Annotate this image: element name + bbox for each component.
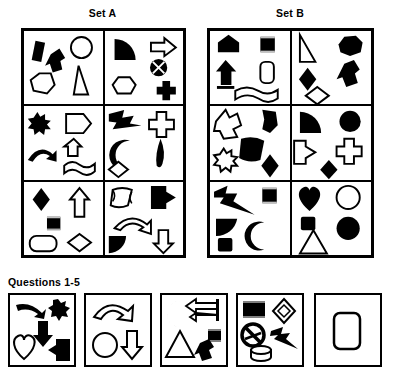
up-arrow-outline [70,188,89,217]
hexagon-blob [338,36,362,56]
circle [71,37,92,58]
cylinder [251,346,271,361]
set-b-cell-4[interactable] [291,105,373,180]
set-a-grid [21,28,186,258]
curved-arrow [114,218,150,233]
curved-arrow [16,304,46,319]
starburst [214,149,237,172]
lightning-feather [108,110,141,129]
crescent [245,221,265,250]
scroll [110,188,131,207]
set-a-cell-4[interactable] [104,105,185,180]
wavy-ribbon [64,162,95,175]
set-a-cell-2[interactable] [104,30,185,105]
quarter-pie [114,39,135,60]
set-a-title: Set A [20,7,185,19]
up-arrow [336,60,359,87]
pentagon-wide [66,114,91,133]
diamond [261,155,278,178]
circle [336,186,359,209]
down-arrow [33,321,53,347]
left-arrow [186,299,219,321]
rounded-rectangle [260,62,274,83]
set-b-cell-3[interactable] [209,105,291,180]
cross [156,81,175,100]
small-square [300,216,314,230]
rounded-rectangle [30,236,57,251]
up-arrow [45,49,65,73]
rounded-rectangle [334,313,360,349]
diamond [298,68,315,91]
set-b-grid [207,28,374,258]
diamond-outline-nested [273,299,295,323]
down-arrow [122,331,142,359]
wavy-ribbon [235,87,277,101]
question-box-1[interactable] [8,293,76,367]
hexagon [112,77,135,93]
rectangle-tilted [32,41,45,62]
small-square [208,329,221,342]
square [243,301,265,318]
diamond [320,160,337,179]
worksheet-page: Set A Set B [0,0,394,378]
small-diamond [108,162,127,177]
small-diamond [305,87,328,104]
flag-arrow-right [150,186,175,209]
curved-arrow [94,305,133,321]
circle [339,111,360,132]
scroll [239,138,264,162]
up-arrow [194,339,214,361]
starburst [28,112,51,135]
small-square [47,216,60,229]
set-b-cell-1[interactable] [209,30,291,105]
triangle [299,230,326,253]
set-b-title: Set B [206,7,374,19]
questions-title: Questions 1-5 [8,276,80,288]
set-a-cell-1[interactable] [23,30,104,105]
small-square [260,37,274,52]
quarter-pie [108,236,125,253]
up-arrow [216,60,236,89]
right-arrow [150,38,175,56]
cross [336,139,361,164]
down-arrow [153,230,172,253]
question-box-3[interactable] [160,293,228,367]
quarter-pie [216,218,237,235]
teardrop [156,139,164,167]
circle-with-x [149,59,166,76]
set-a-cell-5[interactable] [23,181,104,256]
set-a-cell-6[interactable] [104,181,185,256]
set-b-cell-6[interactable] [291,181,373,256]
small-square [262,187,276,202]
arrow-block-up [64,139,81,156]
lightning-feather [214,186,255,215]
set-a-cell-3[interactable] [23,105,104,180]
circle [336,216,359,239]
house-pentagon [218,35,239,52]
small-square [218,238,232,252]
curved-arrow [28,150,57,162]
cross [149,112,174,137]
blob-pentagon [262,110,277,133]
heart [14,335,35,359]
triangle [166,331,194,357]
circle-with-slash [242,324,264,346]
flag-arrow-right [294,141,315,164]
set-b-cell-5[interactable] [209,181,291,256]
right-triangle [74,66,88,95]
diagonal-arrow [214,110,241,139]
question-box-5[interactable] [314,293,382,367]
flag-arrow-left [48,339,70,361]
diamond [33,188,50,211]
pentagon [31,73,55,93]
starburst [48,299,70,321]
lightning-feather [270,327,298,349]
question-box-4[interactable] [236,293,304,367]
question-box-2[interactable] [84,293,152,367]
small-diamond [68,234,91,251]
set-b-cell-2[interactable] [291,30,373,105]
heart [298,186,319,210]
crescent [167,301,180,327]
circle [93,333,117,357]
quarter-pie [299,112,320,133]
